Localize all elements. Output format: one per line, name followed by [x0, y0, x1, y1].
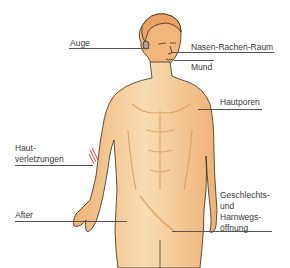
leader-line-geschlechts	[172, 231, 272, 232]
label-geschlechts-line3: Harnwegs-	[220, 212, 261, 222]
label-nasen-rachen-raum: Nasen-Rachen-Raum	[191, 42, 273, 52]
label-geschlechts-line1: Geschlechts-	[220, 190, 270, 200]
label-hautverletzungen-line2: verletzungen	[15, 154, 64, 164]
torso	[73, 62, 217, 268]
label-hautporen: Hautporen	[220, 97, 260, 107]
leader-line-hautverletzungen	[15, 165, 93, 166]
leader-line-after	[15, 221, 127, 222]
label-mund: Mund	[191, 62, 212, 72]
label-auge: Auge	[70, 38, 90, 48]
label-geschlechts-line2: und	[220, 201, 234, 211]
leader-line-hautporen	[198, 109, 262, 110]
label-after: After	[15, 210, 33, 220]
label-hautverletzungen-line1: Haut-	[15, 143, 36, 153]
leader-line-mund	[174, 60, 214, 61]
leader-line-auge	[69, 48, 149, 49]
wound-marks	[89, 148, 98, 164]
leader-line-nasen-rachen-raum	[172, 52, 274, 53]
